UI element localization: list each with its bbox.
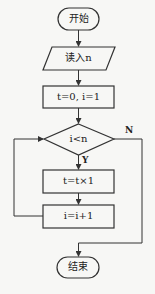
flowchart-canvas xyxy=(0,0,155,294)
no-branch-label: N xyxy=(125,126,133,135)
start-label: 开始 xyxy=(58,14,99,24)
condition-label: i<n xyxy=(54,134,103,144)
yes-branch-label: Y xyxy=(82,156,88,165)
init-label: t=0, i=1 xyxy=(43,92,114,102)
end-label: 结束 xyxy=(57,262,99,272)
increment-label: i=i+1 xyxy=(43,211,114,221)
multiply-label: t=t×1 xyxy=(43,176,114,186)
input-label: 读入n xyxy=(46,53,111,63)
loop-back-connector xyxy=(14,139,43,216)
